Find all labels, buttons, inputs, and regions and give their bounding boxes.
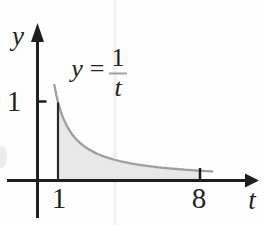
y-axis-label: y [9, 21, 24, 51]
y-axis-arrowhead-icon [31, 23, 44, 42]
reciprocal-function-area-figure: y 1 1 8 t y = 1 t [0, 0, 265, 225]
equation-fraction-numerator: 1 [112, 43, 125, 72]
x-tick-8-label: 8 [192, 182, 207, 214]
x-tick-1-label: 1 [52, 182, 67, 214]
plot-canvas: y 1 1 8 t y = 1 t [0, 0, 265, 225]
y-tick-1-label: 1 [7, 85, 22, 117]
scan-smudge [0, 146, 7, 168]
equation-lhs: y [68, 54, 83, 83]
x-axis-label: t [248, 185, 257, 215]
equation-fraction-denominator: t [114, 73, 122, 102]
equation-equals-sign: = [90, 54, 105, 83]
